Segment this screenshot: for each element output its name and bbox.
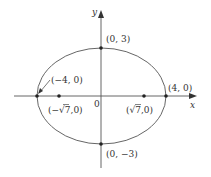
point-right-focus xyxy=(142,94,146,98)
point-left-focus xyxy=(57,94,61,98)
label-right-vertex: (4, 0) xyxy=(168,83,192,93)
label-right-focus-sqrt: √7 xyxy=(130,105,142,115)
y-axis-arrow-icon xyxy=(98,10,104,18)
label-left-focus-prefix: (− xyxy=(48,105,59,115)
label-top-vertex: (0, 3) xyxy=(106,34,130,44)
label-left-focus-suffix: ,0) xyxy=(71,105,83,115)
x-axis-arrow-icon xyxy=(189,93,197,99)
origin-label: 0 xyxy=(94,99,100,109)
point-left-vertex xyxy=(35,94,39,98)
point-right-vertex xyxy=(164,94,168,98)
label-right-focus-suffix: ,0) xyxy=(141,105,153,115)
label-left-vertex: (−4, 0) xyxy=(51,75,83,85)
label-right-focus: (√7,0) xyxy=(126,105,153,115)
x-axis-label: x xyxy=(190,100,195,110)
point-top-vertex xyxy=(99,46,103,50)
label-bottom-vertex: (0, −3) xyxy=(106,149,138,159)
point-bottom-vertex xyxy=(99,142,103,146)
ellipse-diagram: y x 0 (0, 3) (0, −3) (−4, 0) (4, 0) (−√7… xyxy=(0,0,211,177)
y-axis-label: y xyxy=(91,7,98,17)
label-left-focus-sqrt: √7 xyxy=(59,105,71,115)
label-left-focus: (−√7,0) xyxy=(48,105,83,115)
